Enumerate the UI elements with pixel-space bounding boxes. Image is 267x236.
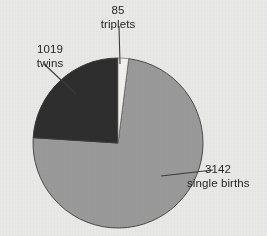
pie-label-single-births: 3142 single births xyxy=(205,163,267,190)
pie-chart-screenshot: 85 triplets 1019 twins 3142 single birth… xyxy=(0,0,267,236)
pie-label-twins-value: 1019 xyxy=(8,43,92,57)
pie-label-triplets-category: triplets xyxy=(72,18,164,32)
pie-label-triplets-value: 85 xyxy=(72,4,164,18)
pie-label-twins-category: twins xyxy=(8,57,92,71)
pie-label-triplets: 85 triplets xyxy=(72,4,164,31)
pie-slice-twins[interactable] xyxy=(33,58,118,143)
pie-label-twins: 1019 twins xyxy=(8,43,92,70)
pie-label-single-births-value: 3142 xyxy=(205,163,267,177)
chart-area: 85 triplets 1019 twins 3142 single birth… xyxy=(0,0,267,236)
pie-label-single-births-category: single births xyxy=(187,177,267,191)
pie-chart-svg xyxy=(0,0,267,236)
